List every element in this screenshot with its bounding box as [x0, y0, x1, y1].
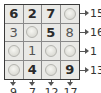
empty-circle-icon [8, 45, 20, 57]
arrow-right-icon [80, 70, 86, 72]
cell-r0-c0[interactable]: 6 [5, 5, 24, 24]
arrow-down-icon [32, 80, 34, 83]
cell-r2-c1[interactable]: 1 [24, 42, 43, 61]
arrow-down-icon [13, 80, 15, 83]
empty-circle-icon [64, 8, 76, 20]
col-clue-0: 9 [4, 80, 23, 93]
empty-circle-icon [45, 45, 57, 57]
row-clue-value: 13 [90, 65, 101, 76]
col-clue-1: 7 [23, 80, 42, 93]
empty-circle-icon [8, 64, 20, 76]
arrow-down-icon [70, 80, 72, 83]
col-clue-value: 7 [29, 87, 36, 93]
row-clue-2: 1 [80, 42, 97, 61]
cell-r3-c2[interactable] [42, 61, 61, 80]
col-clue-2: 12 [42, 80, 61, 93]
col-clue-value: 12 [45, 87, 59, 93]
col-clue-value: 17 [64, 87, 78, 93]
empty-circle-icon [64, 45, 76, 57]
arrow-right-icon [80, 51, 86, 53]
row-clue-value: 16 [90, 27, 101, 38]
row-clue-value: 15 [90, 8, 101, 19]
empty-circle-icon [26, 26, 38, 38]
cell-r2-c3[interactable] [61, 42, 80, 61]
arrow-down-icon [51, 80, 53, 83]
cell-r3-c3[interactable]: 9 [61, 61, 80, 80]
row-clue-0: 15 [80, 4, 101, 23]
cell-r0-c1[interactable]: 2 [24, 5, 43, 24]
row-clue-value: 1 [90, 46, 97, 57]
row-clue-3: 13 [80, 61, 101, 80]
cell-r2-c2[interactable] [42, 42, 61, 61]
cell-r0-c3[interactable] [61, 5, 80, 24]
cell-r0-c2[interactable]: 7 [42, 5, 61, 24]
cell-r3-c1[interactable]: 4 [24, 61, 43, 80]
puzzle-grid: 6 2 7 3 5 8 1 4 9 [4, 4, 80, 80]
arrow-right-icon [80, 13, 86, 15]
cell-r1-c2[interactable]: 5 [42, 24, 61, 43]
arrow-right-icon [80, 32, 86, 34]
col-clue-3: 17 [61, 80, 80, 93]
empty-circle-icon [45, 64, 57, 76]
row-clue-1: 16 [80, 23, 101, 42]
cell-r3-c0[interactable] [5, 61, 24, 80]
cell-r1-c3[interactable]: 8 [61, 24, 80, 43]
cell-r1-c0[interactable]: 3 [5, 24, 24, 43]
col-clue-value: 9 [10, 87, 17, 93]
cell-r1-c1[interactable] [24, 24, 43, 43]
cell-r2-c0[interactable] [5, 42, 24, 61]
